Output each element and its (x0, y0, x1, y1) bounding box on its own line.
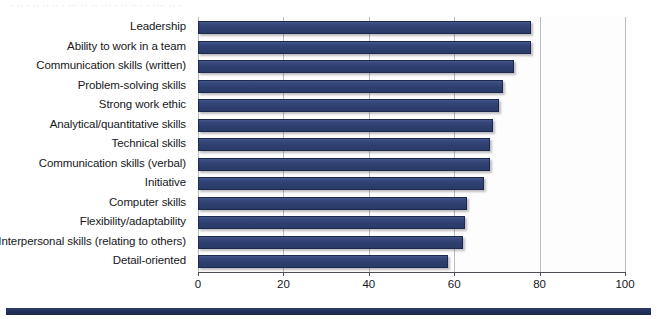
bar-chart: LeadershipAbility to work in a teamCommu… (0, 12, 657, 297)
y-axis-label: Strong work ethic (99, 95, 186, 115)
bar (198, 158, 490, 171)
bar (198, 119, 493, 132)
bar (198, 177, 484, 190)
gridline-80 (540, 17, 541, 272)
gridline-100 (625, 17, 626, 272)
x-tick-label-80: 80 (533, 278, 546, 290)
y-axis-label: Communication skills (verbal) (39, 154, 186, 174)
y-axis-category-labels: LeadershipAbility to work in a teamCommu… (0, 17, 192, 272)
y-axis-label: Communication skills (written) (36, 56, 186, 76)
chart-page: · ·· · ·· ·· ·· · ··· ·· ·· ··· · ·· ·· … (0, 0, 657, 319)
y-axis-label: Technical skills (112, 134, 186, 154)
bar (198, 236, 463, 249)
bar (198, 60, 514, 73)
bar (198, 138, 490, 151)
y-axis-label: Leadership (130, 17, 186, 37)
x-tick-20 (283, 272, 284, 276)
plot-area (198, 17, 625, 272)
y-axis-label: Ability to work in a team (67, 37, 186, 57)
x-tick-label-20: 20 (277, 278, 290, 290)
y-axis-label: Initiative (145, 173, 186, 193)
y-axis-label: Interpersonal skills (relating to others… (0, 232, 186, 252)
x-tick-60 (454, 272, 455, 276)
x-tick-40 (369, 272, 370, 276)
bar (198, 80, 503, 93)
x-tick-100 (625, 272, 626, 276)
y-axis-label: Flexibility/adaptability (80, 212, 186, 232)
x-tick-label-0: 0 (195, 278, 201, 290)
bar (198, 99, 499, 112)
y-axis-label: Analytical/quantitative skills (50, 115, 186, 135)
y-axis-label: Computer skills (109, 193, 186, 213)
bar (198, 41, 531, 54)
x-tick-80 (540, 272, 541, 276)
y-axis-label: Problem-solving skills (78, 76, 186, 96)
footer-band (6, 308, 651, 315)
x-axis-line (198, 272, 625, 273)
bar (198, 255, 448, 268)
y-axis-label: Detail-oriented (113, 251, 186, 271)
x-tick-label-40: 40 (362, 278, 375, 290)
bar (198, 216, 465, 229)
x-tick-label-100: 100 (615, 278, 634, 290)
x-tick-label-60: 60 (448, 278, 461, 290)
clipped-header-text: · ·· · ·· ·· ·· · ··· ·· ·· ··· · ·· ·· … (0, 0, 657, 12)
bar (198, 21, 531, 34)
x-tick-0 (198, 272, 199, 276)
bar (198, 197, 467, 210)
